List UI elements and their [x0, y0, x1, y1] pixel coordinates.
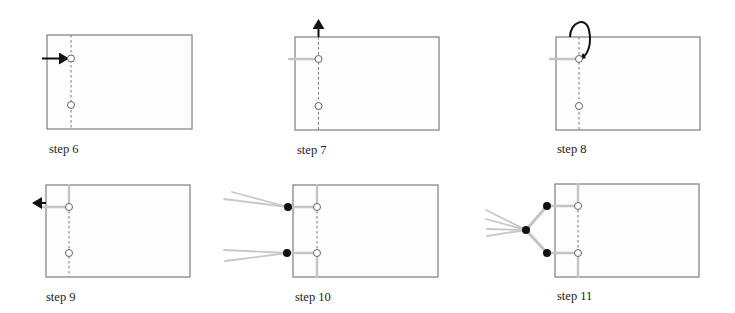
bottom-hole-icon [576, 103, 583, 110]
step-label: step 10 [295, 290, 331, 304]
top-hole-icon [576, 56, 583, 63]
bottom-hole-icon [66, 250, 73, 257]
bottom-hole-icon [68, 102, 75, 109]
step-label: step 9 [46, 290, 76, 304]
knot-icon [522, 226, 530, 234]
step-11-panel: step 11 [486, 184, 699, 303]
page-outline [293, 185, 438, 277]
step-label: step 11 [557, 289, 592, 303]
thread-line [526, 206, 547, 230]
top-hole-icon [315, 56, 322, 63]
thread-tail [232, 192, 288, 207]
page-outline [555, 184, 699, 277]
thread-tail [224, 250, 288, 253]
thread-tail [487, 230, 526, 236]
thread-tail [225, 253, 288, 261]
thread-line [526, 230, 547, 253]
thread-tail [224, 199, 288, 207]
step-6-panel: step 6 [42, 35, 192, 156]
bottom-hole-icon [315, 103, 322, 110]
top-hole-icon [575, 203, 582, 210]
top-hole-icon [66, 204, 73, 211]
bottom-hole-icon [314, 250, 321, 257]
knot-icon [284, 203, 292, 211]
knot-icon [543, 202, 551, 210]
page-outline [295, 37, 439, 130]
step-label: step 7 [297, 143, 327, 157]
knot-icon [543, 249, 551, 257]
thread-tail [487, 229, 526, 230]
step-9-panel: step 9 [34, 185, 190, 304]
step-8-panel: step 8 [550, 22, 700, 156]
step-7-panel: step 7 [289, 21, 439, 157]
binding-steps-diagram: step 6 step 7 step 8 step 9 [0, 0, 735, 313]
knot-icon [283, 249, 291, 257]
page-outline [556, 37, 700, 130]
top-hole-icon [68, 55, 75, 62]
page-outline [47, 35, 192, 129]
step-10-panel: step 10 [224, 185, 438, 304]
step-label: step 8 [557, 142, 587, 156]
page-outline [46, 185, 190, 277]
top-hole-icon [314, 204, 321, 211]
bottom-hole-icon [575, 250, 582, 257]
step-label: step 6 [49, 142, 79, 156]
